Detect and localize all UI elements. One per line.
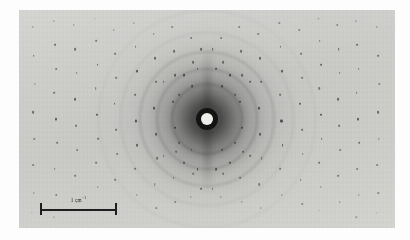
bragg-spot bbox=[249, 81, 251, 83]
bragg-spot bbox=[163, 155, 165, 157]
bragg-spot bbox=[229, 161, 231, 164]
bragg-spot bbox=[155, 133, 157, 136]
bragg-spot bbox=[134, 168, 136, 170]
bragg-spot bbox=[55, 68, 57, 70]
bragg-spot bbox=[282, 144, 284, 147]
bragg-spot bbox=[281, 194, 283, 196]
bragg-spot bbox=[301, 76, 303, 78]
bragg-spot bbox=[221, 148, 223, 151]
bragg-spot bbox=[197, 68, 199, 71]
bragg-spot bbox=[55, 118, 57, 121]
bragg-spot bbox=[76, 148, 78, 150]
scale-bar-label-value: 1 cm bbox=[71, 197, 82, 203]
bragg-spot bbox=[183, 161, 185, 164]
bragg-spot bbox=[319, 39, 321, 41]
bragg-spot bbox=[34, 138, 36, 140]
scale-bar: 1 cm−1 bbox=[40, 203, 117, 215]
bragg-spot bbox=[154, 183, 156, 185]
bragg-spot bbox=[54, 44, 56, 47]
bragg-spot bbox=[318, 87, 320, 89]
bragg-spot bbox=[358, 142, 360, 144]
bragg-spot bbox=[95, 87, 97, 89]
bragg-spot bbox=[339, 72, 341, 74]
bragg-spot bbox=[153, 33, 155, 35]
bragg-spot bbox=[376, 26, 378, 28]
bragg-spot bbox=[377, 164, 379, 166]
bragg-spot bbox=[114, 102, 116, 105]
bragg-spot bbox=[377, 55, 379, 57]
bragg-spot bbox=[222, 172, 224, 174]
bragg-spot bbox=[239, 26, 241, 28]
bragg-spot bbox=[97, 186, 99, 188]
scale-bar-line bbox=[40, 209, 117, 211]
bragg-spot bbox=[280, 120, 282, 123]
bragg-spot bbox=[174, 201, 176, 203]
bragg-spot bbox=[97, 63, 99, 66]
bragg-spot bbox=[249, 155, 251, 157]
bragg-spot bbox=[116, 76, 118, 78]
bragg-spot bbox=[258, 183, 260, 185]
bragg-spot bbox=[259, 57, 261, 60]
bragg-spot bbox=[174, 74, 176, 77]
bragg-spot bbox=[300, 179, 302, 181]
bragg-spot bbox=[215, 68, 217, 71]
bragg-spot bbox=[215, 168, 217, 171]
bragg-spot bbox=[320, 186, 322, 188]
bragg-spot bbox=[136, 70, 138, 73]
bragg-spot bbox=[356, 44, 358, 47]
bragg-spot bbox=[172, 26, 174, 28]
bragg-spot bbox=[136, 194, 138, 196]
bragg-spot bbox=[190, 37, 192, 39]
bragg-spot bbox=[240, 177, 242, 179]
bragg-spot bbox=[135, 120, 137, 123]
bragg-spot bbox=[114, 179, 116, 181]
bragg-spot bbox=[336, 24, 338, 26]
bragg-spot bbox=[56, 142, 58, 144]
bragg-spot bbox=[239, 100, 241, 103]
bragg-spot bbox=[337, 98, 339, 101]
bragg-spot bbox=[190, 196, 192, 198]
bragg-spot bbox=[279, 168, 281, 170]
bragg-spot bbox=[241, 126, 243, 129]
bragg-spot bbox=[96, 113, 98, 116]
bragg-spot bbox=[221, 85, 223, 88]
bragg-spot bbox=[261, 157, 263, 159]
bragg-spot bbox=[153, 107, 155, 110]
bragg-spot bbox=[32, 26, 34, 28]
bragg-spot bbox=[356, 168, 358, 170]
bragg-spot bbox=[319, 161, 321, 163]
bragg-spot bbox=[340, 148, 342, 150]
bragg-spot bbox=[191, 148, 193, 151]
beamstop-icon bbox=[196, 108, 218, 130]
bragg-spot bbox=[241, 201, 243, 203]
bragg-spot bbox=[320, 113, 322, 116]
bragg-spot bbox=[136, 144, 138, 147]
bragg-spot bbox=[116, 153, 118, 155]
scale-bar-tick-left bbox=[40, 203, 42, 215]
bragg-spot bbox=[174, 126, 176, 129]
bragg-spot bbox=[357, 118, 359, 121]
bragg-spot bbox=[197, 168, 199, 171]
bragg-spot bbox=[241, 74, 243, 77]
bragg-spot bbox=[257, 33, 259, 35]
scale-bar-label: 1 cm−1 bbox=[71, 196, 86, 203]
bragg-spot bbox=[173, 177, 175, 179]
bragg-spot bbox=[229, 74, 231, 77]
bragg-spot bbox=[220, 196, 222, 198]
bragg-spot bbox=[259, 133, 261, 136]
bragg-spot bbox=[172, 100, 174, 103]
bragg-spot bbox=[55, 194, 57, 196]
bragg-spot bbox=[299, 102, 301, 105]
bragg-spot bbox=[192, 172, 194, 174]
bragg-spot bbox=[54, 168, 56, 170]
bragg-spot bbox=[74, 98, 76, 101]
bragg-spot bbox=[299, 29, 301, 31]
bragg-spot bbox=[74, 175, 76, 177]
scale-bar-tick-right bbox=[115, 203, 117, 215]
bragg-spot bbox=[154, 57, 156, 60]
bragg-spot bbox=[356, 92, 358, 94]
bragg-spot bbox=[73, 24, 75, 26]
bragg-spot bbox=[113, 29, 115, 31]
bragg-spot bbox=[378, 138, 380, 140]
bragg-spot bbox=[32, 164, 34, 166]
